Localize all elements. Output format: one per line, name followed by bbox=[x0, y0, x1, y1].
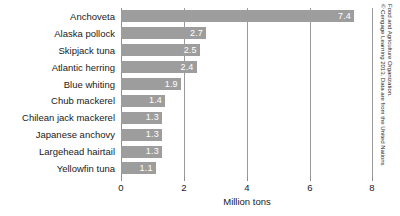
bar: 7.4 bbox=[121, 10, 354, 22]
bar-value-label: 2.5 bbox=[184, 46, 200, 55]
bar-row: 1.1 bbox=[121, 160, 373, 177]
bar-row: 7.4 bbox=[121, 8, 373, 25]
category-label: Largehead hairtail bbox=[0, 143, 118, 160]
bar-row: 1.4 bbox=[121, 92, 373, 109]
bar-chart: Anchoveta Alaska pollock Skipjack tuna A… bbox=[0, 0, 400, 216]
bar-value-label: 7.4 bbox=[338, 12, 354, 21]
bar: 2.5 bbox=[121, 44, 200, 56]
bar-value-label: 2.4 bbox=[180, 63, 196, 72]
x-tick-label: 4 bbox=[244, 182, 249, 193]
x-tick-mark bbox=[247, 177, 248, 181]
category-label: Alaska pollock bbox=[0, 25, 118, 42]
bar-value-label: 1.3 bbox=[146, 147, 162, 156]
x-axis-title: Million tons bbox=[121, 196, 373, 207]
x-tick-label: 2 bbox=[181, 182, 186, 193]
category-label: Japanese anchovy bbox=[0, 126, 118, 143]
bar-value-label: 1.4 bbox=[149, 96, 165, 105]
credit-block: © Cengage Learning 2013. Data are from t… bbox=[379, 0, 399, 216]
bar: 1.3 bbox=[121, 146, 162, 158]
x-tick-mark bbox=[184, 177, 185, 181]
x-tick-mark bbox=[372, 177, 373, 181]
bar-row: 2.7 bbox=[121, 25, 373, 42]
bar-value-label: 2.7 bbox=[190, 29, 206, 38]
bar-row: 2.4 bbox=[121, 59, 373, 76]
category-label: Chilean jack mackerel bbox=[0, 109, 118, 126]
x-tick-label: 8 bbox=[369, 182, 374, 193]
bar: 1.1 bbox=[121, 162, 156, 174]
bar: 2.4 bbox=[121, 61, 197, 73]
bar-row: 1.3 bbox=[121, 126, 373, 143]
category-label: Blue whiting bbox=[0, 76, 118, 93]
category-label: Yellowfin tuna bbox=[0, 160, 118, 177]
bar: 2.7 bbox=[121, 27, 206, 39]
bar-rows: 7.4 2.7 2.5 2.4 1.9 bbox=[121, 8, 373, 177]
bar: 1.4 bbox=[121, 95, 165, 107]
x-tick-label: 0 bbox=[118, 182, 123, 193]
bar-value-label: 1.1 bbox=[140, 164, 156, 173]
bar-value-label: 1.9 bbox=[165, 80, 181, 89]
bar: 1.9 bbox=[121, 78, 181, 90]
bar-row: 1.3 bbox=[121, 109, 373, 126]
plot-area: 7.4 2.7 2.5 2.4 1.9 bbox=[121, 8, 373, 177]
category-label: Skipjack tuna bbox=[0, 42, 118, 59]
bar: 1.3 bbox=[121, 112, 162, 124]
x-tick-mark bbox=[310, 177, 311, 181]
credit-line-2: Food and Agriculture Organization. bbox=[386, 4, 393, 97]
category-label: Atlantic herring bbox=[0, 59, 118, 76]
bar: 1.3 bbox=[121, 129, 162, 141]
category-axis-labels: Anchoveta Alaska pollock Skipjack tuna A… bbox=[0, 8, 118, 177]
x-tick-label: 6 bbox=[307, 182, 312, 193]
bar-value-label: 1.3 bbox=[146, 130, 162, 139]
bar-row: 1.9 bbox=[121, 76, 373, 93]
category-label: Chub mackerel bbox=[0, 92, 118, 109]
bar-row: 2.5 bbox=[121, 42, 373, 59]
x-tick-mark bbox=[121, 177, 122, 181]
bar-row: 1.3 bbox=[121, 143, 373, 160]
category-label: Anchoveta bbox=[0, 8, 118, 25]
bar-value-label: 1.3 bbox=[146, 113, 162, 122]
